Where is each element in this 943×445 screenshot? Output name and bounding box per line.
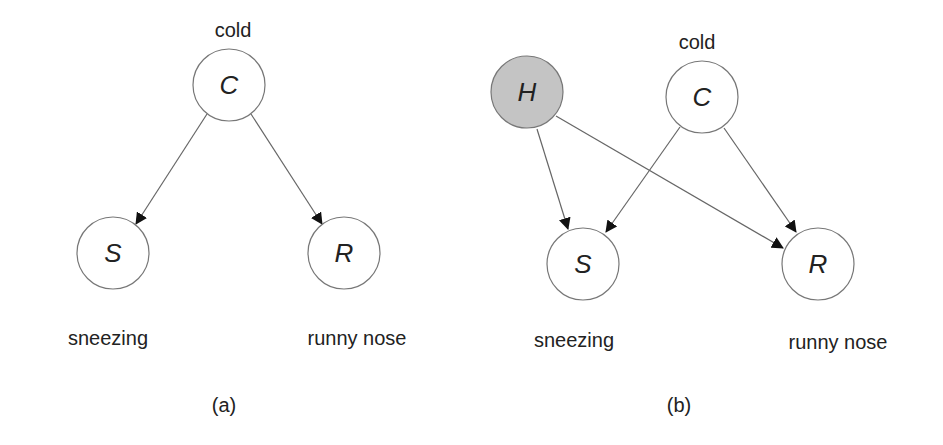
node-c-a: C: [193, 49, 265, 121]
label-cold-a: cold: [215, 19, 252, 42]
edge-c-r-b: [724, 128, 796, 232]
label-cold-b: cold: [679, 31, 716, 54]
node-h-b: H: [491, 56, 563, 128]
label-runny-nose-b: runny nose: [789, 331, 888, 354]
edge-h-s: [537, 129, 568, 229]
node-r-b: R: [782, 228, 854, 300]
caption-a: (a): [212, 394, 236, 417]
node-r-a: R: [308, 217, 380, 289]
svg-text:S: S: [574, 249, 592, 279]
label-sneezing-a: sneezing: [68, 327, 148, 350]
edge-c-s: [136, 114, 207, 224]
svg-text:R: R: [809, 249, 828, 279]
graph-svg: C S R H C S R: [0, 0, 943, 445]
svg-text:H: H: [518, 77, 537, 107]
node-s-b: S: [547, 228, 619, 300]
svg-text:C: C: [693, 82, 712, 112]
svg-text:S: S: [104, 238, 122, 268]
panel-a-edges: [136, 114, 322, 224]
bayes-net-figure: C S R H C S R: [0, 0, 943, 445]
node-s-a: S: [77, 217, 149, 289]
caption-b: (b): [667, 394, 691, 417]
edge-c-r: [251, 114, 322, 224]
svg-text:R: R: [335, 238, 354, 268]
svg-text:C: C: [220, 70, 239, 100]
edge-c-s-b: [606, 127, 680, 232]
label-runny-nose-a: runny nose: [308, 327, 407, 350]
label-sneezing-b: sneezing: [534, 329, 614, 352]
node-c-b: C: [666, 61, 738, 133]
